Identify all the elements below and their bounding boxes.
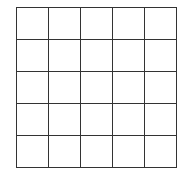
board-cell-r2-c3[interactable] <box>113 72 145 104</box>
board-cell-r4-c1[interactable] <box>49 136 81 168</box>
board-cell-r1-c3[interactable] <box>113 40 145 72</box>
board-cell-r3-c2[interactable] <box>81 104 113 136</box>
board-cell-r4-c3[interactable] <box>113 136 145 168</box>
board-cell-r0-c0[interactable] <box>17 8 49 40</box>
board-cell-r0-c4[interactable] <box>145 8 177 40</box>
board-cell-r4-c0[interactable] <box>17 136 49 168</box>
board-cell-r2-c1[interactable] <box>49 72 81 104</box>
board-cell-r2-c0[interactable] <box>17 72 49 104</box>
board-cell-r1-c2[interactable] <box>81 40 113 72</box>
board-cell-r2-c2[interactable] <box>81 72 113 104</box>
board-cell-r3-c4[interactable] <box>145 104 177 136</box>
board-cell-r4-c2[interactable] <box>81 136 113 168</box>
board-cell-r1-c1[interactable] <box>49 40 81 72</box>
board-cell-r3-c3[interactable] <box>113 104 145 136</box>
board-cell-r2-c4[interactable] <box>145 72 177 104</box>
board-cell-r0-c3[interactable] <box>113 8 145 40</box>
board-cell-r3-c1[interactable] <box>49 104 81 136</box>
game-board <box>16 7 177 168</box>
board-cell-r1-c0[interactable] <box>17 40 49 72</box>
board-cell-r4-c4[interactable] <box>145 136 177 168</box>
board-cell-r1-c4[interactable] <box>145 40 177 72</box>
board-cell-r0-c2[interactable] <box>81 8 113 40</box>
board-cell-r0-c1[interactable] <box>49 8 81 40</box>
board-cell-r3-c0[interactable] <box>17 104 49 136</box>
